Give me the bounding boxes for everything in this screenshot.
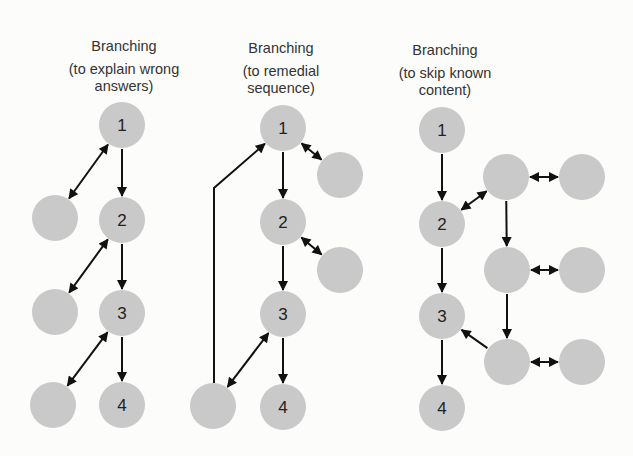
bidirectional-arrow	[301, 237, 321, 254]
frame-node-2: 2	[99, 197, 145, 243]
node-label: 1	[117, 116, 126, 135]
frame-node-1: 1	[99, 102, 145, 148]
bidirectional-arrow	[228, 333, 269, 387]
frame-node-4: 4	[99, 382, 145, 428]
frame-node-4: 4	[419, 385, 465, 431]
node-label: 3	[437, 307, 446, 326]
branch-frame-node	[559, 247, 605, 293]
branch-frame-node	[559, 339, 605, 385]
node-label: 2	[278, 213, 287, 232]
nodes-layer: 123412341234	[30, 102, 605, 431]
branch-frame-node	[317, 152, 363, 198]
node-circle	[559, 247, 605, 293]
branch-frame-node	[190, 383, 236, 429]
node-circle	[559, 339, 605, 385]
node-label: 3	[278, 305, 287, 324]
node-circle	[484, 339, 530, 385]
node-label: 4	[117, 396, 126, 415]
bidirectional-arrow	[69, 239, 108, 292]
branch-frame-node	[559, 154, 605, 200]
frame-node-2: 2	[419, 201, 465, 247]
bidirectional-arrow	[302, 143, 322, 159]
bidirectional-arrow	[69, 144, 108, 198]
node-circle	[317, 152, 363, 198]
node-circle	[190, 383, 236, 429]
node-circle	[559, 154, 605, 200]
node-label: 4	[437, 399, 446, 418]
frame-node-2: 2	[260, 199, 306, 245]
node-label: 2	[117, 211, 126, 230]
node-circle	[484, 247, 530, 293]
branch-frame-node	[483, 154, 529, 200]
node-circle	[317, 247, 363, 293]
branch-frame-node	[30, 382, 76, 428]
bidirectional-arrow	[461, 191, 486, 210]
frame-node-3: 3	[260, 291, 306, 337]
branch-frame-node	[32, 195, 78, 241]
node-circle	[483, 154, 529, 200]
node-label: 4	[278, 398, 287, 417]
frame-node-3: 3	[99, 290, 145, 336]
node-circle	[32, 289, 78, 335]
frame-node-3: 3	[419, 293, 465, 339]
node-circle	[32, 195, 78, 241]
bidirectional-arrow	[67, 332, 107, 386]
branch-frame-node	[317, 247, 363, 293]
branch-frame-node	[484, 339, 530, 385]
node-circle	[30, 382, 76, 428]
node-label: 1	[278, 119, 287, 138]
branch-frame-node	[484, 247, 530, 293]
frame-node-1: 1	[419, 107, 465, 153]
branch-frame-node	[32, 289, 78, 335]
node-label: 2	[437, 215, 446, 234]
frame-node-1: 1	[260, 105, 306, 151]
node-label: 1	[437, 121, 446, 140]
frame-node-4: 4	[260, 384, 306, 430]
node-label: 3	[117, 304, 126, 323]
arrow	[462, 330, 488, 348]
branching-diagram: 123412341234	[0, 0, 633, 456]
